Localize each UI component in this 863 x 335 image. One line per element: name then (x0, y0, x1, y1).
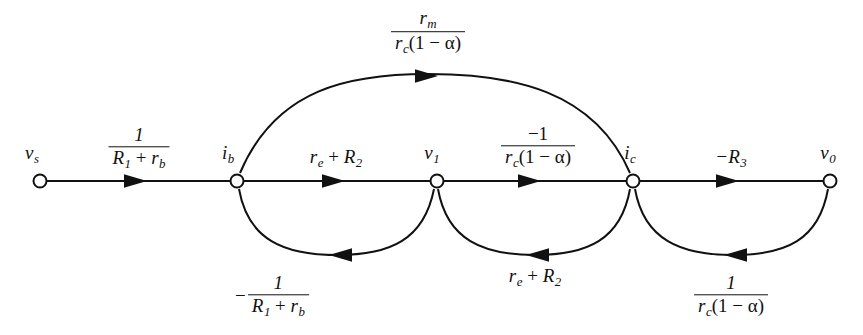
edge-arc-v1-ib (239, 189, 434, 262)
arrowhead-v1-ic (518, 174, 541, 188)
edge-arc-v0-ic (635, 189, 828, 262)
fraction-denominator: rc(1 − α) (501, 145, 575, 169)
edge-label-vs-ib: 1 R1 + rb (108, 125, 169, 170)
edge-label-ib-v1: re + R2 (310, 147, 362, 170)
node-label-v0: v0 (820, 143, 835, 166)
fraction-denominator: rc(1 − α) (694, 294, 768, 318)
arrowhead-ib-v1 (322, 174, 345, 188)
edge-label-arc-v1-ib: − 1 R1 + rb (235, 273, 309, 318)
fraction-numerator: 1 (270, 273, 288, 294)
arrowhead-arc-v0-ic (724, 248, 747, 262)
fraction-numerator: 1 (130, 125, 148, 146)
fraction-numerator: −1 (524, 124, 552, 145)
signal-flow-graph-figure: vs ib v1 ic v0 1 R1 + rb re + R2 −1 rc(1… (0, 0, 863, 335)
node-v1[interactable] (431, 175, 444, 188)
node-label-v1: v1 (424, 143, 439, 166)
fraction-denominator: R1 + rb (108, 146, 169, 170)
edge-label-ic-v0: −R3 (715, 147, 746, 170)
node-label-vs: vs (25, 143, 39, 166)
arrowhead-vs-ib (124, 174, 147, 188)
edge-label-arc-ib-ic: rm rc(1 − α) (391, 8, 465, 56)
edge-arc-ic-v1 (438, 189, 630, 262)
edge-label-v1-ic: −1 rc(1 − α) (501, 124, 575, 169)
fraction-denominator: rc(1 − α) (391, 32, 465, 56)
arrowhead-arc-ib-ic (415, 69, 438, 83)
edge-label-arc-v0-ic: 1 rc(1 − α) (694, 273, 768, 318)
arrowhead-arc-ic-v1 (526, 248, 549, 262)
node-ib[interactable] (231, 175, 244, 188)
node-label-ib: ib (222, 143, 234, 166)
arc-path-v1-ib (239, 189, 434, 255)
fraction-numerator: 1 (722, 273, 740, 294)
fraction-numerator: rm (415, 8, 440, 31)
edge-label-arc-ic-v1: re + R2 (509, 266, 561, 289)
fraction-denominator: R1 + rb (248, 294, 309, 318)
arrowhead-ic-v0 (716, 174, 739, 188)
node-ic[interactable] (627, 175, 640, 188)
node-label-ic: ic (624, 143, 636, 166)
node-v0[interactable] (824, 175, 837, 188)
fraction-sign: − (235, 285, 248, 307)
arc-path-v0-ic (635, 189, 828, 255)
arrowhead-arc-v1-ib (329, 248, 352, 262)
arc-path-ic-v1 (438, 189, 630, 255)
node-vs[interactable] (34, 175, 47, 188)
